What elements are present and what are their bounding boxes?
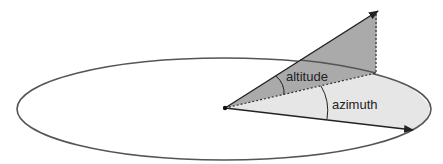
altitude-label: altitude [286, 69, 328, 84]
altitude-azimuth-diagram: altitude azimuth [0, 0, 443, 164]
azimuth-label: azimuth [332, 97, 378, 112]
observer-point [223, 106, 227, 110]
